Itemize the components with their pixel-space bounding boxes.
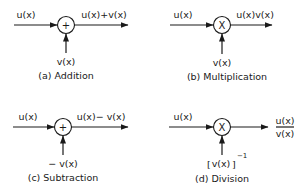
times-symbol: X — [219, 20, 226, 31]
exponent: −1 — [237, 152, 247, 160]
caption: (b) Multiplication — [187, 71, 267, 82]
side-input-label: v(x) — [57, 56, 76, 67]
caption: (d) Division — [195, 173, 249, 184]
times-symbol: X — [219, 122, 226, 133]
input-label: u(x) — [173, 9, 192, 20]
addition-diagram: + u(x) u(x)+v(x) v(x) (a) Addition — [14, 9, 128, 81]
side-input-label: v(x) — [213, 57, 232, 68]
plus-symbol: + — [59, 122, 67, 133]
multiplication-diagram: X u(x) u(x)v(x) v(x) (b) Multiplication — [170, 9, 274, 82]
output-denominator: v(x) — [276, 128, 295, 139]
division-diagram: X u(x) u(x) v(x) [ v(x) ] −1 (d) Divisio… — [169, 111, 295, 184]
right-bracket: ] — [232, 159, 236, 170]
left-bracket: [ — [207, 159, 211, 170]
output-numerator: u(x) — [275, 115, 294, 126]
side-input-label: v(x) — [212, 158, 231, 169]
operator-diagrams: + u(x) u(x)+v(x) v(x) (a) Addition X u(x… — [0, 0, 305, 191]
input-label: u(x) — [18, 111, 37, 122]
side-input-label: − v(x) — [48, 158, 78, 169]
caption: (c) Subtraction — [28, 172, 99, 183]
plus-symbol: + — [62, 20, 70, 31]
subtraction-diagram: + u(x) u(x)− v(x) − v(x) (c) Subtraction — [13, 111, 128, 183]
input-label: u(x) — [16, 9, 35, 20]
caption: (a) Addition — [38, 70, 93, 81]
output-label: u(x)+v(x) — [81, 9, 127, 20]
output-label: u(x)− v(x) — [77, 111, 126, 122]
input-label: u(x) — [173, 111, 192, 122]
output-label: u(x)v(x) — [236, 9, 274, 20]
